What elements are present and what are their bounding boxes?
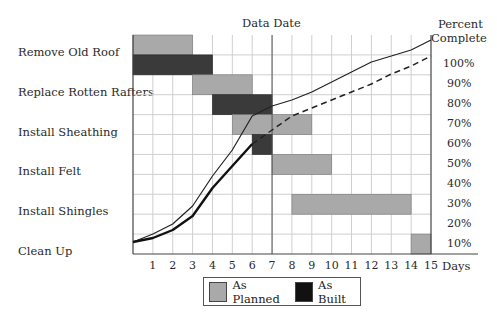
planned-bar (133, 35, 193, 55)
built-bar (133, 55, 212, 75)
legend-built-label: As Built (318, 278, 354, 306)
planned-bar (411, 234, 431, 254)
legend-planned-swatch (209, 282, 227, 302)
planned-bar (292, 194, 411, 214)
planned-bar (272, 154, 332, 174)
built-bar (212, 95, 272, 115)
legend-built-swatch (295, 282, 313, 302)
gantt-plot (0, 0, 497, 320)
planned-bar (193, 75, 253, 95)
legend: As Planned As Built (203, 277, 361, 306)
legend-planned-label: As Planned (232, 278, 283, 306)
